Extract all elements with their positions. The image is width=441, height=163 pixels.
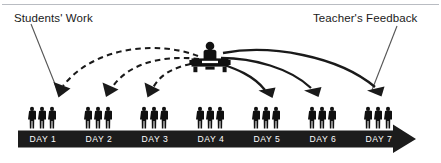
diagram-graphics: DAY 1 DAY 2 DAY 3 DAY 4 DAY 5 DAY 6 DAY … (0, 0, 441, 163)
student-group-day-6 (308, 107, 336, 129)
day-label-5: DAY 5 (254, 134, 281, 144)
diagram-canvas: Students' Work Teacher's Feedback (0, 0, 441, 163)
student-group-day-4 (196, 107, 224, 129)
student-group-day-1 (28, 107, 56, 129)
leader-line-right (372, 26, 397, 90)
student-group-day-2 (84, 107, 112, 129)
teacher-feedback-arrows (219, 50, 375, 90)
student-group-day-3 (140, 107, 168, 129)
day-label-1: DAY 1 (30, 134, 57, 144)
student-group-day-7 (364, 107, 392, 129)
students-work-arrowheads (54, 82, 161, 98)
teacher-feedback-arrowheads (259, 87, 385, 99)
day-label-6: DAY 6 (310, 134, 337, 144)
day-label-2: DAY 2 (86, 134, 113, 144)
day-label-3: DAY 3 (142, 134, 169, 144)
leader-line-left (31, 24, 57, 89)
day-label-7: DAY 7 (366, 134, 393, 144)
student-group-day-5 (252, 107, 280, 129)
students-work-arrows (63, 48, 200, 90)
day-label-4: DAY 4 (198, 134, 225, 144)
